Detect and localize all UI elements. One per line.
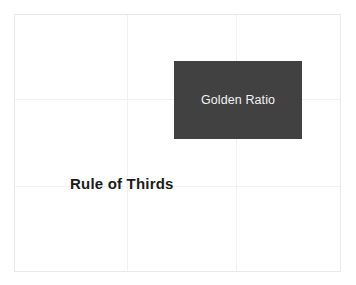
composition-frame: Golden Ratio Rule of Thirds (14, 14, 341, 272)
golden-ratio-label: Golden Ratio (201, 94, 275, 107)
grid-line-vertical-left (127, 15, 128, 271)
golden-ratio-block[interactable]: Golden Ratio (174, 61, 302, 139)
rule-of-thirds-label: Rule of Thirds (70, 175, 174, 193)
grid-line-horizontal-bottom (15, 186, 340, 187)
grid-line-vertical-right (236, 15, 237, 271)
composition-canvas: Golden Ratio Rule of Thirds (0, 0, 356, 285)
